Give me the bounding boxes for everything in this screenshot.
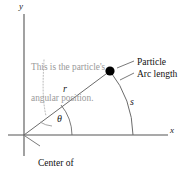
circular-motion-diagram: y x r s θ Particle Arc length Center of …: [0, 0, 186, 172]
angular-position-annotation: This is the particle's angular position.: [31, 41, 105, 124]
particle-dot: [105, 66, 114, 75]
arc-length-variable-label: s: [130, 96, 134, 107]
annotation-line1: This is the particle's: [31, 62, 105, 72]
particle-leader-line: [117, 61, 134, 68]
arc-length-leader-line: [120, 73, 134, 80]
particle-callout-label: Particle: [137, 57, 166, 68]
center-callout: Center of circular motion: [38, 137, 96, 172]
x-axis-label: x: [170, 125, 174, 135]
y-axis-label: y: [19, 1, 23, 11]
annotation-line2: angular position.: [31, 93, 105, 103]
arc-length-callout-label: Arc length: [137, 69, 177, 80]
center-callout-line1: Center of: [38, 158, 96, 169]
